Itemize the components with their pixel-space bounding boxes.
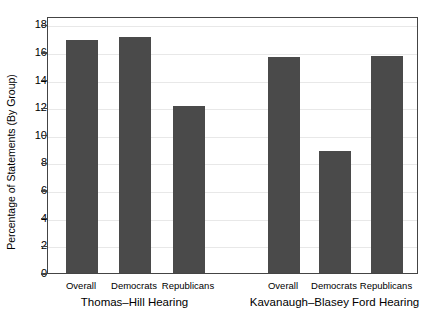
x-axis-category-label: Republicans [341,280,430,291]
y-axis-tick-mark [41,52,47,53]
bar [66,40,98,274]
gridline [48,247,417,248]
y-axis-tick-mark [41,273,47,274]
bar [173,106,205,273]
y-axis-tick-mark [41,25,47,26]
y-axis-tick-mark [41,246,47,247]
y-axis-tick-mark [41,218,47,219]
bar [119,37,151,273]
gridline [48,192,417,193]
bar [268,57,300,273]
gridline [48,109,417,110]
gridline [48,137,417,138]
bar-chart-figure: Percentage of Statements (By Group) 1816… [0,0,430,324]
gridline [48,220,417,221]
bar [371,56,403,273]
x-axis-category-label: Republicans [143,280,233,291]
plot-area [47,17,418,274]
bar [319,151,351,273]
gridline [48,82,417,83]
x-axis-group-label: Kavanaugh–Blasey Ford Hearing [225,296,430,309]
gridline [48,26,417,27]
y-axis-tick-mark [41,108,47,109]
y-axis-tick-mark [41,80,47,81]
x-axis-group-label: Thomas–Hill Hearing [25,296,245,309]
y-axis-tick-mark [41,135,47,136]
y-axis-tick-mark [41,163,47,164]
gridline [48,164,417,165]
y-axis-tick-mark [41,190,47,191]
gridline [48,54,417,55]
